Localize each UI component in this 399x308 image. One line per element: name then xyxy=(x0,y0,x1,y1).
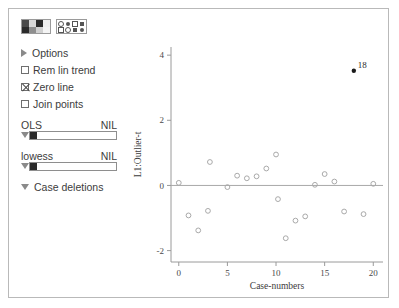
x-tick-label: 15 xyxy=(320,268,330,278)
data-point[interactable] xyxy=(332,179,337,184)
palette-cell xyxy=(29,27,36,34)
triangle-down-icon[interactable] xyxy=(21,163,29,169)
slider-lowess[interactable]: lowess NIL xyxy=(21,150,117,171)
y-tick-label: 0 xyxy=(160,181,165,191)
slider-body[interactable] xyxy=(21,162,117,171)
x-axis-title: Case-numbers xyxy=(250,281,305,291)
data-point[interactable] xyxy=(254,174,259,179)
x-tick-label: 0 xyxy=(177,268,182,278)
palette-cell xyxy=(22,27,29,34)
checkbox-label: Rem lin trend xyxy=(33,64,95,76)
marker-glyph-sq xyxy=(58,27,64,33)
data-point[interactable] xyxy=(235,173,240,178)
data-point[interactable] xyxy=(303,214,308,219)
data-point[interactable] xyxy=(342,209,347,214)
slider-header: OLS NIL xyxy=(21,119,117,131)
triangle-right-icon xyxy=(21,49,27,57)
checkbox-label: Zero line xyxy=(33,81,74,93)
slider-header: lowess NIL xyxy=(21,150,117,162)
data-point[interactable] xyxy=(293,218,298,223)
data-point[interactable] xyxy=(283,236,288,241)
data-point[interactable] xyxy=(274,152,279,157)
slider-ols[interactable]: OLS NIL xyxy=(21,119,117,140)
checkbox-label: Join points xyxy=(33,98,83,110)
scatter-plot[interactable]: -202405101520Case-numbersL1:Outlier-t18 xyxy=(127,9,388,297)
plot-window: Options Rem lin trend Zero line Join poi… xyxy=(8,8,389,298)
slider-track[interactable] xyxy=(29,162,117,171)
data-point[interactable] xyxy=(244,176,249,181)
palette-cell xyxy=(43,27,50,34)
marker-glyph-sqf xyxy=(73,28,77,32)
control-panel: Options Rem lin trend Zero line Join poi… xyxy=(9,9,127,297)
options-label: Options xyxy=(32,47,68,59)
x-tick-label: 20 xyxy=(369,268,379,278)
checkbox-zero-line[interactable]: Zero line xyxy=(21,81,74,93)
marker-glyph-sqf xyxy=(80,22,84,26)
plot-canvas[interactable]: -202405101520Case-numbersL1:Outlier-t18 xyxy=(127,9,390,299)
slider-fill xyxy=(30,132,37,139)
slider-body[interactable] xyxy=(21,131,117,140)
marker-glyph-sq xyxy=(72,21,78,27)
data-point-flagged[interactable] xyxy=(352,69,356,73)
triangle-down-icon[interactable] xyxy=(21,132,29,138)
data-point[interactable] xyxy=(361,212,366,217)
slider-label: OLS xyxy=(21,119,42,131)
x-tick-label: 5 xyxy=(225,268,230,278)
slider-label: lowess xyxy=(21,150,53,162)
y-tick-label: 4 xyxy=(160,50,165,60)
y-tick-label: 2 xyxy=(160,115,165,125)
data-point[interactable] xyxy=(313,182,318,187)
palette-cell xyxy=(36,27,43,34)
checkbox-rem-lin-trend[interactable]: Rem lin trend xyxy=(21,64,95,76)
y-axis-title: L1:Outlier-t xyxy=(133,131,143,177)
data-point[interactable] xyxy=(322,172,327,177)
checkbox-icon[interactable] xyxy=(21,66,29,74)
data-point[interactable] xyxy=(264,166,269,171)
slider-value: NIL xyxy=(101,150,117,162)
checkbox-join-points[interactable]: Join points xyxy=(21,98,83,110)
data-point[interactable] xyxy=(196,228,201,233)
marker-glyph-dotf xyxy=(80,28,84,32)
slider-track[interactable] xyxy=(29,131,117,140)
case-deletions-label: Case deletions xyxy=(34,181,103,193)
options-disclosure[interactable]: Options xyxy=(21,47,68,59)
checkbox-checked-icon[interactable] xyxy=(21,83,29,91)
data-point[interactable] xyxy=(276,197,281,202)
checkbox-icon[interactable] xyxy=(21,100,29,108)
slider-fill xyxy=(30,163,37,170)
x-tick-label: 10 xyxy=(272,268,282,278)
data-point[interactable] xyxy=(176,180,181,185)
data-point[interactable] xyxy=(186,213,191,218)
marker-style-icon[interactable] xyxy=(56,19,87,34)
palette-icon[interactable] xyxy=(21,19,51,34)
icon-toolbar xyxy=(21,19,87,34)
y-tick-label: -2 xyxy=(157,246,165,256)
slider-value: NIL xyxy=(101,119,117,131)
data-point[interactable] xyxy=(206,208,211,213)
data-point-label: 18 xyxy=(358,60,368,70)
marker-glyph-dotf xyxy=(66,22,70,26)
triangle-down-icon xyxy=(21,184,29,190)
marker-glyph-dot xyxy=(65,27,71,33)
case-deletions-disclosure[interactable]: Case deletions xyxy=(21,181,103,193)
data-point[interactable] xyxy=(207,160,212,165)
